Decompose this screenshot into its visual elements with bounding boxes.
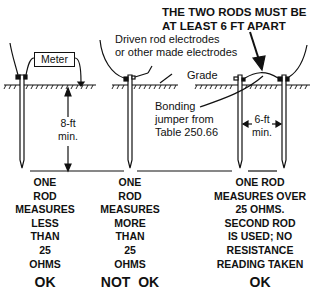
ground-rod-2 — [124, 75, 135, 168]
grade-pointer — [160, 74, 172, 83]
result-line: 25 — [5, 244, 85, 258]
result-line: ONE — [90, 176, 170, 190]
bonding-jumper-label: Bonding jumper from Table 250.66 — [155, 100, 218, 139]
driven-rod-label: Driven rod electrodes or other made elec… — [115, 33, 237, 59]
result-column-3: ONE ROD MEASURES OVER 25 OHMS. SECOND RO… — [210, 176, 310, 291]
grade-line-right — [195, 85, 310, 89]
result-line: OHMS — [90, 258, 170, 272]
result-line: RESISTANCE — [210, 244, 310, 258]
spacing-label: 6-ft min. — [250, 113, 274, 139]
result-line: THAN — [5, 230, 85, 244]
result-column-2: ONE ROD MEASURES MORE THAN 25 OHMS NOT O… — [90, 176, 170, 291]
grade-line-left — [4, 85, 96, 89]
result-column-1: ONE ROD MEASURES LESS THAN 25 OHMS OK — [5, 176, 85, 291]
result-line: 25 OHMS. — [210, 203, 310, 217]
result-line: ROD — [5, 190, 85, 204]
result-line: MORE — [90, 217, 170, 231]
result-line: ONE ROD — [210, 176, 310, 190]
result-line: SECOND ROD — [210, 217, 310, 231]
grade-label: Grade — [187, 69, 218, 82]
driven-rod-line-2: or other made electrodes — [115, 46, 237, 59]
driven-rod-line-1: Driven rod electrodes — [115, 33, 237, 46]
diagram-title: THE TWO RODS MUST BE AT LEAST 6 FT APART — [162, 5, 306, 33]
result-line: READING TAKEN — [210, 258, 310, 272]
depth-line-2: min. — [54, 130, 82, 143]
result-line: THAN — [90, 230, 170, 244]
verdict-not-ok: NOT OK — [90, 273, 170, 291]
ground-rod-4 — [278, 75, 289, 168]
depth-line-1: 8-ft — [54, 117, 82, 130]
spacing-line-2: min. — [250, 126, 274, 139]
result-line: OHMS — [5, 258, 85, 272]
title-line-2: AT LEAST 6 FT APART — [162, 19, 306, 33]
bonding-line-3: Table 250.66 — [155, 126, 218, 139]
ground-rod-1 — [16, 75, 27, 168]
verdict-ok: OK — [210, 273, 310, 291]
verdict-ok: OK — [5, 273, 85, 291]
grade-line-middle — [112, 85, 178, 89]
result-line: 25 — [90, 244, 170, 258]
result-line: MEASURES — [5, 203, 85, 217]
result-line: IS USED; NO — [210, 230, 310, 244]
meter-box: Meter — [34, 52, 75, 67]
result-line: MEASURES — [90, 203, 170, 217]
result-line: LESS — [5, 217, 85, 231]
result-line: ONE — [5, 176, 85, 190]
bonding-line-1: Bonding — [155, 100, 218, 113]
title-line-1: THE TWO RODS MUST BE — [162, 5, 306, 19]
result-line: MEASURES OVER — [210, 190, 310, 204]
meter-label: Meter — [41, 53, 68, 65]
bonding-line-2: jumper from — [155, 113, 218, 126]
title-arrow — [250, 32, 265, 70]
spacing-line-1: 6-ft — [250, 113, 274, 126]
result-line: ROD — [90, 190, 170, 204]
depth-label: 8-ft min. — [54, 117, 82, 143]
